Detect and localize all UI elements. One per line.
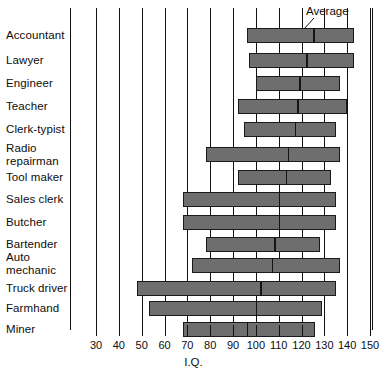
average-tick-teacher [297, 99, 299, 114]
average-tick-radio-repairman [288, 147, 290, 162]
bar-sales-clerk [183, 192, 336, 207]
average-tick-farmhand [256, 301, 258, 316]
average-tick-lawyer [306, 53, 308, 68]
average-tick-engineer [299, 76, 301, 91]
average-tick-butcher [279, 215, 281, 230]
category-label-butcher: Butcher [6, 216, 46, 229]
tick-40 [119, 325, 120, 336]
category-label-miner: Miner [6, 323, 35, 336]
average-tick-clerk-typist [295, 122, 297, 137]
category-label-bartender: Bartender [6, 238, 57, 251]
tick-label-150: 150 [355, 339, 385, 351]
category-label-auto-mechanic: Auto mechanic [6, 251, 56, 276]
category-label-tool-maker: Tool maker [6, 171, 63, 184]
bar-auto-mechanic [192, 258, 340, 273]
tick-50 [142, 325, 143, 336]
average-tick-sales-clerk [279, 192, 281, 207]
category-label-lawyer: Lawyer [6, 54, 44, 67]
category-label-sales-clerk: Sales clerk [6, 193, 63, 206]
category-label-accountant: Accountant [6, 29, 65, 42]
tick-30 [96, 325, 97, 336]
bar-bartender [206, 237, 320, 252]
category-label-clerk-typist: Clerk-typist [6, 123, 65, 136]
bar-accountant [247, 28, 354, 43]
average-tick-miner [247, 322, 249, 337]
tick-140 [347, 325, 348, 336]
bar-radio-repairman [206, 147, 341, 162]
category-label-teacher: Teacher [6, 100, 48, 113]
x-axis-title: I.Q. [0, 356, 387, 368]
average-tick-truck-driver [260, 281, 262, 296]
average-tick-bartender [274, 237, 276, 252]
bar-clerk-typist [244, 122, 335, 137]
bar-teacher [238, 99, 348, 114]
bar-engineer [256, 76, 340, 91]
tick-120 [302, 325, 303, 336]
tick-100 [256, 325, 257, 336]
category-label-radio-repairman: Radio repairman [6, 142, 59, 167]
gridline-40 [119, 8, 120, 330]
tick-110 [279, 325, 280, 336]
iq-by-occupation-chart: AccountantLawyerEngineerTeacherClerk-typ… [0, 0, 387, 375]
gridline-150 [370, 8, 371, 330]
tick-90 [233, 325, 234, 336]
bar-miner [183, 322, 315, 337]
average-tick-accountant [313, 28, 315, 43]
tick-70 [187, 325, 188, 336]
bar-farmhand [149, 301, 323, 316]
category-label-engineer: Engineer [6, 77, 53, 90]
tick-60 [165, 325, 166, 336]
category-label-truck-driver: Truck driver [6, 282, 67, 295]
bar-tool-maker [238, 170, 332, 185]
average-tick-auto-mechanic [272, 258, 274, 273]
tick-150 [370, 325, 371, 336]
tick-130 [324, 325, 325, 336]
tick-80 [210, 325, 211, 336]
bar-butcher [183, 215, 336, 230]
average-tick-tool-maker [286, 170, 288, 185]
average-leader-line [303, 18, 315, 30]
gridline-30 [96, 8, 97, 330]
category-label-farmhand: Farmhand [6, 302, 59, 315]
bar-truck-driver [137, 281, 336, 296]
average-annotation-label: Average [306, 5, 349, 17]
bar-lawyer [249, 53, 354, 68]
